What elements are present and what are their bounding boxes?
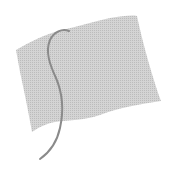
flag-icon xyxy=(0,0,188,181)
flag-illustration xyxy=(0,0,188,181)
flag-cloth xyxy=(16,16,161,132)
